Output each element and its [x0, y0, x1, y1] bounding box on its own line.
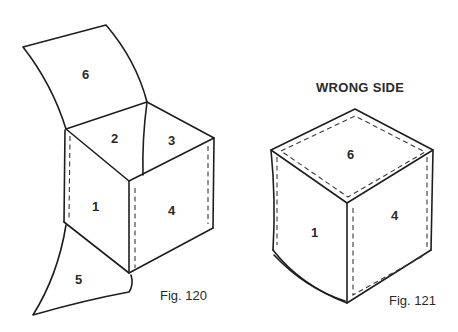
- face-label-2: 2: [111, 131, 118, 146]
- seam-front: [353, 208, 425, 295]
- diagram-canvas: 6 2 3 1 4 5 6 1 4: [0, 0, 458, 332]
- fig-121-caption: Fig. 121: [389, 293, 436, 308]
- right-edge: [431, 150, 433, 250]
- bottom-edge-inner: [274, 255, 345, 301]
- bottom-edges: [64, 222, 213, 273]
- seam-left: [69, 136, 70, 218]
- face-label-1: 1: [92, 199, 99, 214]
- cube-top-rim: [66, 102, 214, 181]
- inner-fold-line: [143, 102, 147, 175]
- fig-121-heading: WRONG SIDE: [316, 80, 404, 95]
- face-label-5: 5: [75, 272, 82, 287]
- left-edge: [271, 150, 274, 250]
- left-edge: [64, 130, 65, 222]
- fig-120-caption: Fig. 120: [160, 288, 207, 303]
- face-label-4: 4: [168, 203, 176, 218]
- face-label-6: 6: [347, 147, 354, 162]
- flap-5-outline: [33, 225, 132, 315]
- face-label-1: 1: [311, 225, 318, 240]
- fig-121-drawing: 6 1 4: [271, 109, 433, 303]
- right-edge: [213, 138, 214, 228]
- face-label-4: 4: [391, 208, 399, 223]
- face-label-3: 3: [168, 133, 175, 148]
- face-label-6: 6: [82, 67, 89, 82]
- fig-120-drawing: 6 2 3 1 4 5: [23, 25, 214, 315]
